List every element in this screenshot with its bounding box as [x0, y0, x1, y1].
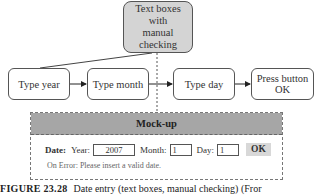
caption-text: Date entry (text boxes, manual checking)…	[74, 183, 262, 194]
year-label: Year:	[71, 145, 90, 155]
error-message: On Error: Please insert a valid date.	[47, 161, 161, 170]
day-label: Day:	[197, 145, 215, 155]
flow-step-label: Type day	[185, 79, 224, 90]
top-node-label: Text boxes with manual checking	[124, 3, 192, 51]
flow-step-label: Press button OK	[252, 73, 313, 95]
month-label: Month:	[140, 145, 167, 155]
year-input[interactable]: 2007	[93, 144, 135, 156]
figure-number: FIGURE 23.28	[0, 183, 68, 194]
date-label: Date:	[45, 145, 66, 155]
flow-step-type-day: Type day	[173, 68, 235, 100]
mockup-header: Mock-up	[31, 113, 282, 135]
day-input[interactable]: 1	[217, 144, 239, 156]
figure-caption: FIGURE 23.28Date entry (text boxes, manu…	[0, 183, 262, 194]
mockup-title: Mock-up	[136, 118, 177, 129]
flow-step-type-month: Type month	[87, 68, 149, 100]
flow-step-type-year: Type year	[8, 68, 70, 100]
flow-step-press-button-ok: Press button OK	[251, 68, 314, 100]
mockup-panel: Mock-up Date: Year: 2007 Month: 1 Day: 1…	[30, 112, 283, 180]
date-form-row: Date: Year: 2007 Month: 1 Day: 1 OK	[45, 143, 271, 156]
ok-button[interactable]: OK	[246, 143, 271, 156]
flow-step-label: Type month	[93, 79, 143, 90]
top-node-text-boxes-manual-checking: Text boxes with manual checking	[123, 1, 193, 53]
flow-step-label: Type year	[18, 79, 60, 90]
month-input[interactable]: 1	[170, 144, 192, 156]
